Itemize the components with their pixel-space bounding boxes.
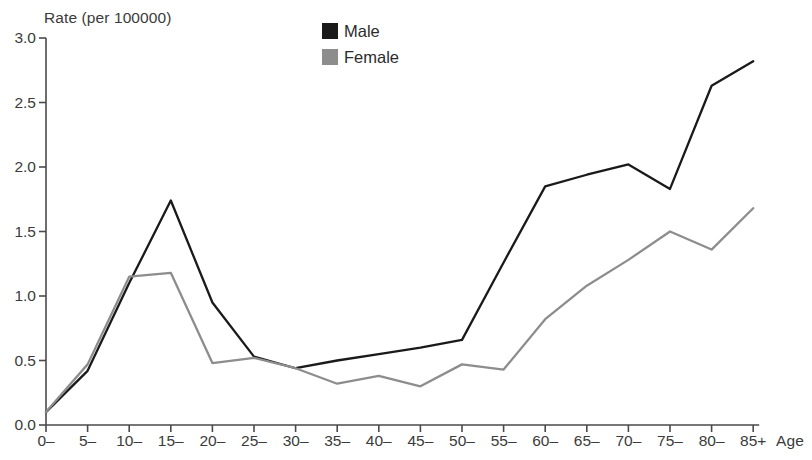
legend-swatch-icon xyxy=(322,49,338,65)
x-tick-label: 60– xyxy=(532,432,558,450)
y-tick-label: 1.5 xyxy=(2,223,36,241)
x-tick-label: 25– xyxy=(241,432,267,450)
data-series-lines xyxy=(46,61,753,412)
x-tick-label: 70– xyxy=(615,432,641,450)
y-tick-label: 1.0 xyxy=(2,287,36,305)
y-tick-label: 3.0 xyxy=(2,29,36,47)
y-tick-label: 2.0 xyxy=(2,158,36,176)
x-tick-label: 75– xyxy=(657,432,683,450)
x-tick-label: 45– xyxy=(407,432,433,450)
x-tick-label: 20– xyxy=(199,432,225,450)
y-tick-label: 0.5 xyxy=(2,352,36,370)
x-tick-label: 35– xyxy=(324,432,350,450)
series-line-male xyxy=(46,61,753,412)
plot-area xyxy=(0,0,812,460)
x-tick-label: 10– xyxy=(116,432,142,450)
x-tick-label: 15– xyxy=(158,432,184,450)
x-tick-label: 85+ xyxy=(740,432,766,450)
legend-swatch-icon xyxy=(322,23,338,39)
x-tick-label: 55– xyxy=(491,432,517,450)
chart-legend: MaleFemale xyxy=(322,18,399,70)
x-tick-label: 40– xyxy=(366,432,392,450)
legend-item-male: Male xyxy=(322,18,399,44)
x-tick-label: 65– xyxy=(574,432,600,450)
x-tick-label: 80– xyxy=(699,432,725,450)
x-tick-label: 30– xyxy=(283,432,309,450)
chart-container: Rate (per 100000) Age 0.00.51.01.52.02.5… xyxy=(0,0,812,460)
y-tick-label: 2.5 xyxy=(2,94,36,112)
x-tick-label: 5– xyxy=(79,432,96,450)
legend-label: Female xyxy=(344,49,399,66)
y-axis-title: Rate (per 100000) xyxy=(44,9,172,27)
x-tick-label: 50– xyxy=(449,432,475,450)
x-axis-title: Age xyxy=(776,432,804,450)
axis-ticks xyxy=(39,38,753,432)
axis-lines xyxy=(46,38,759,425)
x-tick-label: 0– xyxy=(37,432,54,450)
y-tick-label: 0.0 xyxy=(2,416,36,434)
legend-item-female: Female xyxy=(322,44,399,70)
legend-label: Male xyxy=(344,23,380,40)
